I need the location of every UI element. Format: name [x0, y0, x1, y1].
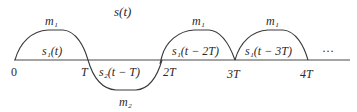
amplitude-label-m2: m₂ — [119, 95, 132, 109]
amplitude-label-m1: m₁ — [45, 14, 58, 28]
tick-label-4T: 4T — [300, 67, 314, 81]
tick-label-2T: 2T — [163, 65, 177, 79]
pulse-label: s₁(t) — [42, 44, 62, 58]
pulse-label: s₁(t − 2T) — [172, 44, 219, 58]
signal-diagram: s(t) m₁ m₂ m₁ m₁ s₁(t) s₂(t − T) s₁(t − … — [0, 0, 357, 112]
tick-label-0: 0 — [11, 65, 17, 79]
signal-title: s(t) — [114, 4, 131, 19]
amplitude-label-m1: m₁ — [192, 14, 205, 28]
continuation-ellipsis: ··· — [322, 44, 334, 58]
tick-label-T: T — [81, 65, 89, 79]
amplitude-label-m1: m₁ — [266, 14, 279, 28]
tick-label-3T: 3T — [226, 67, 241, 81]
pulse-label: s₂(t − T) — [99, 65, 140, 79]
pulse-label: s₁(t − 3T) — [245, 44, 292, 58]
